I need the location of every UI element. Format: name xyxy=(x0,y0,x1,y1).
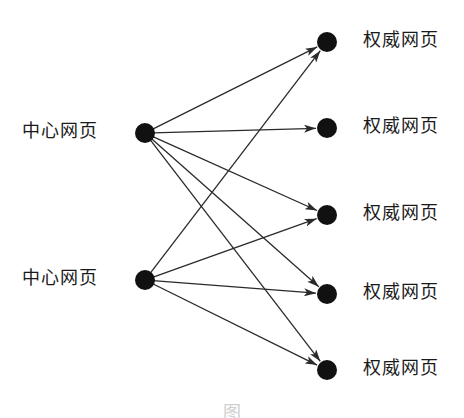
authority-label-4: 权威网页 xyxy=(363,282,439,302)
edge-hub-2-to-auth-1 xyxy=(150,51,320,274)
hub-label-1: 中心网页 xyxy=(22,121,98,141)
authority-node-auth-5 xyxy=(317,360,337,380)
authority-label-5: 权威网页 xyxy=(363,358,439,378)
edge-hub-1-to-auth-4 xyxy=(151,138,319,286)
authority-label-3: 权威网页 xyxy=(363,203,439,223)
figure-caption: 图 xyxy=(0,398,464,418)
edge-hub-1-to-auth-2 xyxy=(153,128,316,133)
edge-hub-1-to-auth-3 xyxy=(152,136,317,210)
hub-node-hub-1 xyxy=(135,123,155,143)
edge-hub-2-to-auth-4 xyxy=(153,281,316,294)
hub-node-hub-2 xyxy=(135,270,155,290)
authority-node-auth-2 xyxy=(317,118,337,138)
authority-node-auth-4 xyxy=(317,284,337,304)
authority-label-2: 权威网页 xyxy=(363,116,439,136)
authority-node-auth-1 xyxy=(317,32,337,52)
hub-label-2: 中心网页 xyxy=(22,268,98,288)
edges xyxy=(150,47,320,365)
edge-hub-1-to-auth-5 xyxy=(150,139,320,361)
authority-label-1: 权威网页 xyxy=(363,30,439,50)
edge-hub-2-to-auth-3 xyxy=(153,219,317,278)
authority-node-auth-3 xyxy=(317,205,337,225)
